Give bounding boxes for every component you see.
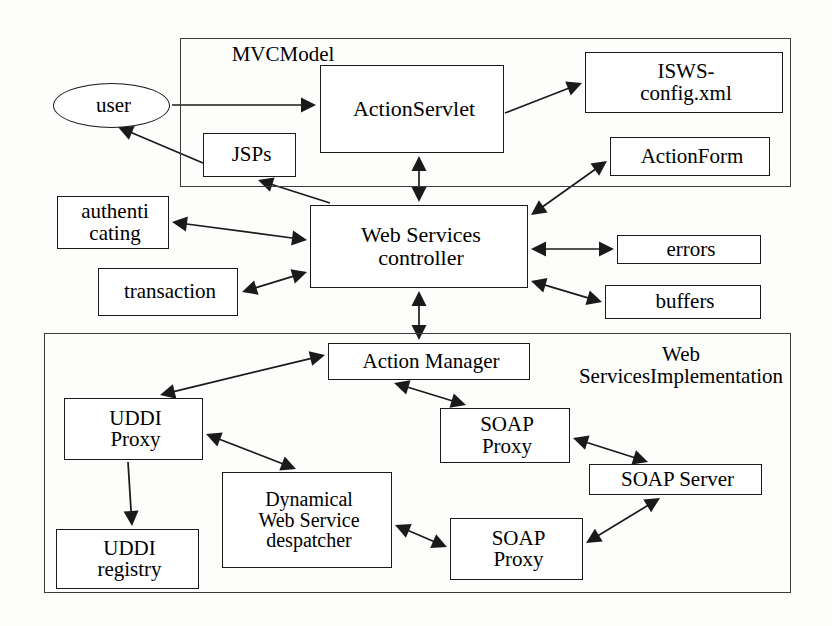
- node-ws-controller: Web Servicescontroller: [310, 205, 528, 288]
- node-user: user: [53, 83, 170, 128]
- node-label-user: user: [54, 95, 169, 116]
- node-dynamical-ws: DynamicalWeb Servicedespatcher: [222, 472, 392, 568]
- arrowhead-icon: [585, 291, 602, 305]
- arrowhead-icon: [290, 269, 307, 283]
- node-label-isws-config: ISWS-config.xml: [586, 61, 782, 104]
- arrowhead-icon: [599, 242, 614, 257]
- node-transaction: transaction: [98, 268, 238, 316]
- arrowhead-icon: [531, 242, 546, 257]
- node-label-authenticating: authenticating: [58, 201, 168, 244]
- node-label-errors: errors: [618, 239, 760, 260]
- node-label-ws-controller: Web Servicescontroller: [311, 224, 527, 269]
- node-label-action-form: ActionForm: [611, 146, 769, 167]
- node-label-soap-proxy-2: SOAPProxy: [451, 528, 582, 571]
- arrowhead-icon: [531, 278, 548, 292]
- node-label-jsps: JSPs: [204, 144, 295, 165]
- edge-controller-to-errors: [531, 242, 614, 257]
- node-uddi-proxy: UDDIProxy: [64, 398, 203, 460]
- edge-line: [543, 285, 589, 299]
- node-errors: errors: [617, 235, 761, 264]
- node-isws-config: ISWS-config.xml: [585, 52, 783, 113]
- node-buffers: buffers: [605, 285, 761, 319]
- node-label-uddi-registry: UDDIregistry: [57, 538, 198, 581]
- node-label-soap-server: SOAP Server: [590, 469, 761, 490]
- node-label-uddi-proxy: UDDIProxy: [65, 408, 202, 451]
- arrowhead-icon: [118, 126, 135, 140]
- arrowhead-icon: [412, 291, 427, 306]
- arrowhead-icon: [291, 231, 307, 246]
- group-label-mvc-model: MVCModel: [218, 44, 348, 66]
- node-label-action-servlet: ActionServlet: [321, 98, 503, 120]
- node-authenticating: authenticating: [57, 196, 169, 249]
- arrowhead-icon: [172, 217, 188, 232]
- edge-controller-to-buffers: [531, 278, 602, 305]
- node-uddi-registry: UDDIregistry: [56, 529, 199, 589]
- arrowhead-icon: [531, 200, 548, 215]
- group-label-web-services-implementation: Web ServicesImplementation: [572, 344, 790, 388]
- node-soap-proxy-2: SOAPProxy: [450, 518, 583, 580]
- edge-line: [185, 224, 294, 239]
- node-label-soap-proxy-1: SOAPProxy: [441, 414, 569, 457]
- arrowhead-icon: [412, 187, 427, 202]
- edge-controller-to-transaction: [242, 269, 307, 295]
- node-label-action-manager: Action Manager: [329, 351, 529, 372]
- node-label-buffers: buffers: [606, 291, 760, 312]
- node-label-transaction: transaction: [99, 281, 237, 302]
- node-jsps: JSPs: [203, 133, 296, 177]
- node-action-manager: Action Manager: [328, 343, 530, 380]
- node-label-dynamical-ws: DynamicalWeb Servicedespatcher: [223, 489, 391, 550]
- node-soap-proxy-1: SOAPProxy: [440, 408, 570, 463]
- node-action-form: ActionForm: [610, 137, 770, 176]
- edge-line: [254, 276, 294, 288]
- edge-controller-to-authenticating: [172, 217, 307, 246]
- node-soap-server: SOAP Server: [589, 464, 762, 495]
- architecture-diagram: MVCModelWeb ServicesImplementation userJ…: [0, 0, 832, 626]
- arrowhead-icon: [242, 280, 259, 294]
- node-action-servlet: ActionServlet: [320, 65, 504, 153]
